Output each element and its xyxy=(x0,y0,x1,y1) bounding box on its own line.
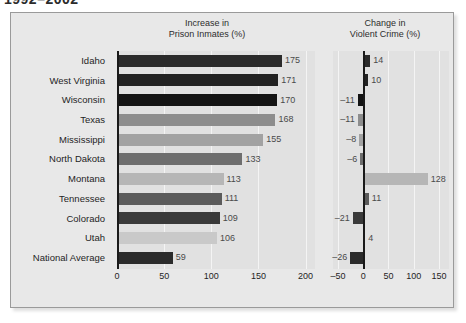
bar-value-label: 155 xyxy=(266,134,281,145)
axis-tick-label: 50 xyxy=(159,271,169,281)
bar xyxy=(117,252,173,264)
bar-row: 170 xyxy=(117,90,315,110)
axis-tick-label: 0 xyxy=(361,271,366,281)
bar xyxy=(117,173,224,185)
bar-value-label: –11 xyxy=(340,95,354,106)
axis-tick-label: 150 xyxy=(431,271,446,281)
category-axis-labels: IdahoWest VirginiaWisconsinTexasMississi… xyxy=(15,51,111,268)
bar-value-label: 168 xyxy=(278,114,293,125)
chart-panel: Increase in Prison Inmates (%) Change in… xyxy=(10,12,454,308)
axis-tick-label: 200 xyxy=(298,271,313,281)
axis-tick-label: 0 xyxy=(114,271,119,281)
bar-value-label: –11 xyxy=(340,114,354,125)
bar xyxy=(350,252,363,264)
bar-value-label: 14 xyxy=(373,55,383,66)
bar xyxy=(117,74,278,86)
bar-value-label: 171 xyxy=(281,75,296,86)
category-label: Montana xyxy=(15,169,111,189)
bar-row: 133 xyxy=(117,149,315,169)
bar-row: 175 xyxy=(117,51,315,71)
bar xyxy=(117,134,263,146)
category-label: Colorado xyxy=(15,209,111,229)
bar-value-label: 113 xyxy=(227,174,241,185)
left-chart-header: Increase in Prison Inmates (%) xyxy=(117,18,297,40)
category-label: Wisconsin xyxy=(15,90,111,110)
prison-inmates-plot: 17517117016815513311311110910659 xyxy=(117,51,315,269)
bar xyxy=(117,212,220,224)
bar-row: 11 xyxy=(333,189,449,209)
category-label: Idaho xyxy=(15,51,111,71)
axis-tick-label: 100 xyxy=(204,271,219,281)
bar-value-label: 11 xyxy=(372,193,381,204)
bar xyxy=(117,193,222,205)
bar-row: 4 xyxy=(333,228,449,248)
axis-tick-label: 150 xyxy=(251,271,266,281)
bar xyxy=(363,173,428,185)
bar-row: 109 xyxy=(117,209,315,229)
bar-row: –8 xyxy=(333,130,449,150)
right-chart-header: Change in Violent Crime (%) xyxy=(321,18,449,40)
bar-value-label: 128 xyxy=(431,174,446,185)
bar-row: –11 xyxy=(333,110,449,130)
bar-row: 128 xyxy=(333,169,449,189)
bar-row: 59 xyxy=(117,248,315,268)
value-axis-line xyxy=(363,51,365,269)
bar-value-label: –6 xyxy=(347,154,357,165)
bar-row: –11 xyxy=(333,90,449,110)
category-label: West Virginia xyxy=(15,71,111,91)
value-axis-line xyxy=(117,51,119,269)
bar-value-label: 4 xyxy=(368,233,373,244)
bar-value-label: 109 xyxy=(223,213,238,224)
category-label: Utah xyxy=(15,228,111,248)
bar xyxy=(117,94,277,106)
axis-tick-label: –50 xyxy=(331,271,346,281)
bar-value-label: 133 xyxy=(245,154,260,165)
bar-value-label: –8 xyxy=(346,134,356,145)
bar-row: –6 xyxy=(333,149,449,169)
bar-row: 171 xyxy=(117,71,315,91)
bar xyxy=(117,114,275,126)
bar-row: 10 xyxy=(333,71,449,91)
bar xyxy=(353,212,364,224)
bar-row: 14 xyxy=(333,51,449,71)
axis-tick-label: 100 xyxy=(406,271,421,281)
bar-value-label: 170 xyxy=(280,95,295,106)
bar-value-label: 59 xyxy=(176,252,186,263)
bar-value-label: 10 xyxy=(371,75,381,86)
bar-row: 155 xyxy=(117,130,315,150)
axis-tick-label: 50 xyxy=(383,271,393,281)
bar-value-label: 111 xyxy=(225,193,239,204)
bar-row: –26 xyxy=(333,248,449,268)
bar-value-label: 175 xyxy=(285,55,300,66)
category-label: Tennessee xyxy=(15,189,111,209)
bar xyxy=(117,232,217,244)
category-label: Texas xyxy=(15,110,111,130)
category-label: National Average xyxy=(15,248,111,268)
chart-title-strip: 1992–2002 xyxy=(0,0,466,9)
bar-row: 168 xyxy=(117,110,315,130)
bar-value-label: –26 xyxy=(332,252,347,263)
violent-crime-plot: 1410–11–11–8–612811–214–26 xyxy=(333,51,449,269)
bar xyxy=(117,55,282,67)
bar-row: 111 xyxy=(117,189,315,209)
violent-crime-x-axis: –50050100150 xyxy=(333,271,449,285)
bar-row: 106 xyxy=(117,228,315,248)
prison-inmates-x-axis: 050100150200 xyxy=(117,271,315,285)
category-label: North Dakota xyxy=(15,149,111,169)
bar-row: –21 xyxy=(333,209,449,229)
bar-value-label: 106 xyxy=(220,233,235,244)
bar xyxy=(117,153,242,165)
bar-row: 113 xyxy=(117,169,315,189)
bar-value-label: –21 xyxy=(335,213,350,224)
category-label: Mississippi xyxy=(15,130,111,150)
chart-title: 1992–2002 xyxy=(4,0,79,7)
